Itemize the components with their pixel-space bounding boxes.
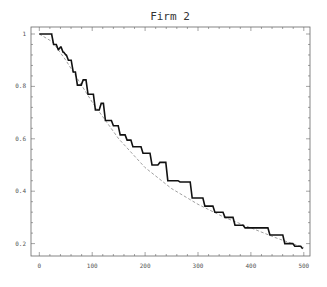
y-tick-label: 0.8 bbox=[15, 82, 26, 89]
y-axis-tick-labels: 0.20.40.60.81 bbox=[15, 30, 26, 247]
y-tick-label: 0.2 bbox=[15, 240, 26, 247]
fitted-line bbox=[39, 34, 304, 248]
x-tick-label: 500 bbox=[298, 262, 309, 269]
x-tick-label: 0 bbox=[37, 262, 41, 269]
empirical-step-line bbox=[39, 34, 302, 249]
x-tick-label: 100 bbox=[87, 262, 98, 269]
plot-frame bbox=[31, 27, 310, 256]
axis-ticks bbox=[31, 27, 310, 256]
chart: Firm 2 0100200300400500 0.20.40.60.81 bbox=[0, 0, 327, 287]
x-tick-label: 400 bbox=[245, 262, 256, 269]
x-tick-label: 200 bbox=[140, 262, 151, 269]
x-axis-tick-labels: 0100200300400500 bbox=[37, 262, 309, 269]
y-tick-label: 1 bbox=[22, 30, 26, 37]
chart-title: Firm 2 bbox=[150, 10, 190, 23]
x-tick-label: 300 bbox=[193, 262, 204, 269]
y-tick-label: 0.4 bbox=[15, 187, 26, 194]
y-tick-label: 0.6 bbox=[15, 135, 26, 142]
